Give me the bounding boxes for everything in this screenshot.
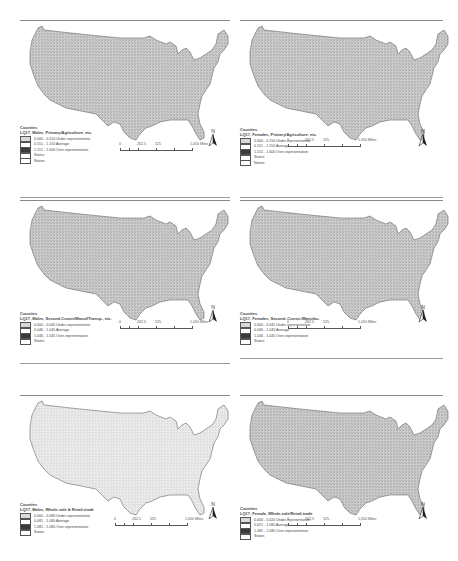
legend-class-label: 1.151 - 1.600 Over-representation bbox=[34, 148, 88, 153]
legend-item-label: States bbox=[254, 155, 264, 160]
scale-label: 525 bbox=[155, 142, 161, 146]
scale-tick bbox=[174, 326, 175, 329]
frame-top-line bbox=[240, 200, 443, 201]
frame-top-line bbox=[240, 20, 443, 21]
legend-class-label: 1.151 - 1.600 Over-representation bbox=[254, 150, 308, 155]
map-legend: Counties LQ17, Females, Primary/Agricult… bbox=[240, 128, 317, 166]
scale-bar: 0262.55251,050 Miles bbox=[288, 320, 370, 329]
scale-tick bbox=[360, 326, 361, 329]
north-arrow-icon bbox=[418, 134, 428, 146]
scale-tick bbox=[169, 523, 170, 526]
legend-class-label: 1.081 - 1.080 Over-representation bbox=[34, 525, 88, 530]
legend-item-label: States bbox=[254, 534, 264, 539]
legend-class-label: 0.151 - 1.150 Average bbox=[34, 142, 69, 147]
scale-tick bbox=[192, 148, 193, 151]
frame-bottom-line bbox=[20, 197, 230, 198]
scale-tick bbox=[138, 148, 139, 151]
legend-nation: Nation bbox=[240, 161, 317, 167]
legend-swatch bbox=[240, 339, 251, 345]
legend-swatch bbox=[20, 530, 31, 536]
scale-label: 0 bbox=[119, 142, 121, 146]
scale-label: 1,050 Miles bbox=[358, 138, 376, 142]
legend-class-label: 0.000 - 0.045 Under-representation bbox=[34, 323, 90, 328]
scale-label: 525 bbox=[155, 320, 161, 324]
legend-states: States bbox=[20, 530, 94, 536]
scale-label: 262.5 bbox=[305, 517, 314, 521]
legend-swatch bbox=[240, 160, 251, 166]
frame-top-line bbox=[20, 20, 230, 21]
north-arrow: N bbox=[418, 128, 428, 147]
legend-swatch bbox=[20, 339, 31, 345]
scale-tick bbox=[324, 144, 325, 147]
scale-bar: 0262.5525-1,050 Miles bbox=[288, 517, 370, 526]
legend-item-label: States bbox=[34, 339, 44, 344]
north-arrow: N bbox=[418, 501, 428, 520]
legend-title: LQ17, Males, Primary/Agriculture, etc. bbox=[20, 131, 92, 136]
legend-swatch bbox=[240, 534, 251, 540]
scale-tick bbox=[288, 144, 289, 147]
frame-top-line bbox=[20, 395, 230, 396]
scale-tick bbox=[129, 148, 130, 151]
scale-label: 0 bbox=[287, 320, 289, 324]
scale-label: 1,050 Miles bbox=[358, 320, 376, 324]
frame-top-line bbox=[240, 395, 443, 396]
legend-item-label: States bbox=[34, 530, 44, 535]
north-arrow: N bbox=[418, 304, 428, 323]
scale-label: 525- bbox=[323, 517, 330, 521]
north-arrow-icon bbox=[418, 310, 428, 322]
legend-item-label: States bbox=[254, 339, 264, 344]
legend-class-label: 1.046 - 1.045 Over-representation bbox=[34, 334, 88, 339]
scale-tick bbox=[324, 326, 325, 329]
scale-bar: 0262.55251,050 Miles bbox=[120, 320, 202, 329]
scale-label: 262.5 bbox=[137, 320, 146, 324]
map-panel-females-primary: Counties LQ17, Females, Primary/Agricult… bbox=[240, 20, 443, 180]
north-arrow-icon bbox=[208, 507, 218, 519]
map-legend: Counties LQ17, Males, Primary/Agricultur… bbox=[20, 126, 92, 164]
scale-label: 525 bbox=[150, 517, 156, 521]
legend-title: LQ17, Female, Whole-sale/Retail-trade bbox=[240, 512, 312, 517]
legend-title: LQ17, Males, Whole-sale & Retail-trade bbox=[20, 508, 94, 513]
frame-bottom-line bbox=[20, 363, 230, 364]
scale-bar: 0262.55251,050 Miles bbox=[120, 142, 202, 151]
legend-item-label: States bbox=[34, 153, 44, 158]
legend-title: LQ17, Females, Primary/Agriculture, etc. bbox=[240, 133, 317, 138]
scale-tick bbox=[360, 144, 361, 147]
scale-label: 0 bbox=[287, 138, 289, 142]
scale-tick bbox=[297, 523, 298, 526]
legend-class-label: 0.000 - 0.080 Under-representation bbox=[34, 514, 90, 519]
scale-tick bbox=[324, 523, 325, 526]
map-panel-males-primary: Counties LQ17, Males, Primary/Agricultur… bbox=[20, 20, 230, 180]
legend-nation: Nation bbox=[20, 159, 92, 165]
scale-tick bbox=[115, 523, 116, 526]
scale-tick bbox=[138, 326, 139, 329]
scale-tick bbox=[306, 144, 307, 147]
scale-tick bbox=[129, 326, 130, 329]
legend-states: States bbox=[240, 534, 312, 540]
map-panel-females-wholesale: Counties LQ17, Female, Whole-sale/Retail… bbox=[240, 395, 443, 555]
scale-label: 262.5 bbox=[305, 138, 314, 142]
scale-tick bbox=[297, 326, 298, 329]
scale-tick bbox=[156, 148, 157, 151]
scale-label: 0 bbox=[287, 517, 289, 521]
scale-bar: 0262.55251,050 Miles bbox=[288, 138, 370, 147]
scale-tick bbox=[360, 523, 361, 526]
scale-tick bbox=[297, 144, 298, 147]
scale-tick bbox=[306, 523, 307, 526]
north-arrow-icon bbox=[208, 134, 218, 146]
scale-label: 262.5 bbox=[132, 517, 141, 521]
scale-label: 0 bbox=[114, 517, 116, 521]
scale-tick bbox=[342, 523, 343, 526]
legend-class-label: 1.081 - 1.080 Over-representation bbox=[254, 529, 308, 534]
map-legend: Counties LQ17, Males, Second-Constr/Manu… bbox=[20, 312, 112, 345]
legend-class-label: 0.046 - 1.045 Average bbox=[34, 328, 69, 333]
scale-label: 1,050 Miles bbox=[190, 142, 208, 146]
scale-label: 262.5 bbox=[137, 142, 146, 146]
scale-label: 1,050 Miles bbox=[185, 517, 203, 521]
scale-tick bbox=[288, 523, 289, 526]
scale-tick bbox=[174, 148, 175, 151]
legend-states: States bbox=[20, 339, 112, 345]
scale-tick bbox=[306, 326, 307, 329]
scale-tick bbox=[342, 144, 343, 147]
scale-tick bbox=[156, 326, 157, 329]
scale-tick bbox=[342, 326, 343, 329]
